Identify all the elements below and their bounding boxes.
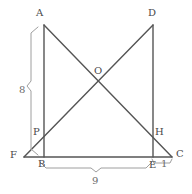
construction-lines — [24, 25, 172, 157]
vertex-label-E: E — [149, 160, 156, 170]
vertex-label-D: D — [148, 8, 156, 18]
vertex-label-H: H — [155, 127, 164, 137]
vertex-label-B: B — [38, 159, 45, 169]
vertex-label-P: P — [33, 127, 40, 137]
vertex-label-F: F — [10, 150, 17, 160]
brace-horizontal-9 — [40, 162, 152, 172]
vertex-label-A: A — [36, 8, 43, 18]
measure-label-1: 1 — [161, 159, 167, 169]
geometry-figure: A D O P H F B E C 8 9 1 — [0, 0, 192, 194]
measure-label-9: 9 — [92, 176, 98, 186]
vertex-label-C: C — [176, 149, 184, 159]
measure-label-8: 8 — [19, 85, 25, 95]
vertex-label-O: O — [94, 66, 102, 76]
